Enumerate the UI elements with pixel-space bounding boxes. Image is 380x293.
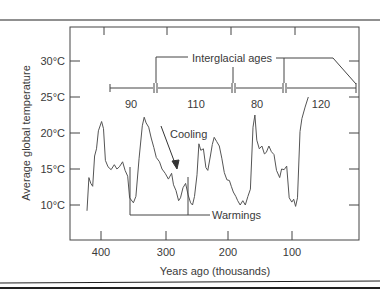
svg-text:20°C: 20°C: [40, 127, 65, 139]
warmings-label: Warmings: [212, 209, 262, 221]
x-ticks: [101, 231, 292, 240]
y-ticks-right: [349, 61, 359, 205]
cooling-label: Cooling: [170, 128, 207, 140]
svg-text:25°C: 25°C: [40, 91, 65, 103]
svg-text:30°C: 30°C: [40, 55, 65, 67]
svg-text:110: 110: [187, 98, 205, 110]
svg-text:10°C: 10°C: [40, 199, 65, 211]
x-tick-labels: 400 300 200 100: [92, 246, 301, 258]
svg-text:15°C: 15°C: [40, 163, 65, 175]
bottom-rule-1: [0, 281, 380, 283]
interval-labels: 90 110 80 120: [125, 98, 330, 110]
svg-text:80: 80: [251, 98, 263, 110]
temperature-chart: 30°C 25°C 20°C 15°C 10°C 400 300 200 100…: [0, 0, 380, 293]
svg-text:100: 100: [283, 246, 301, 258]
x-axis-title: Years ago (thousands): [160, 265, 270, 277]
top-ticks: [104, 27, 295, 35]
svg-text:300: 300: [157, 246, 175, 258]
y-ticks-left: [70, 61, 80, 205]
svg-text:400: 400: [92, 246, 110, 258]
warmings-bracket: [130, 167, 210, 215]
temperature-line: [87, 97, 308, 211]
interglacial-label: Interglacial ages: [192, 52, 273, 64]
svg-text:200: 200: [219, 246, 237, 258]
y-tick-labels: 30°C 25°C 20°C 15°C 10°C: [40, 55, 65, 211]
svg-text:120: 120: [312, 98, 330, 110]
y-axis-title: Average global temperature: [20, 65, 32, 201]
svg-text:90: 90: [125, 98, 137, 110]
